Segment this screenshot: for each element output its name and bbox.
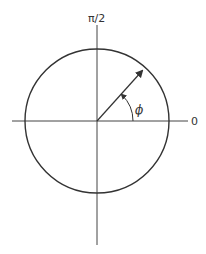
polar-diagram: ϕ π/2 0 <box>0 0 206 254</box>
axis-label-pi-over-2: π/2 <box>88 12 105 25</box>
axis-label-zero: 0 <box>191 115 198 128</box>
angle-arc <box>122 95 133 121</box>
angle-label: ϕ <box>135 103 143 117</box>
